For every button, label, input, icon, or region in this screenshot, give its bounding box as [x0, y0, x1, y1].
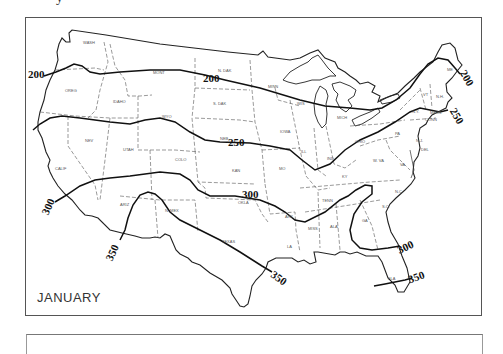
state-label: MICH	[337, 115, 347, 120]
label-200-west: 200	[28, 68, 45, 80]
map-month-caption: JANUARY	[37, 290, 101, 305]
label-200-east: 200	[458, 68, 477, 89]
state-label: GA	[362, 218, 368, 223]
state-label: LA	[287, 244, 292, 249]
label-250-east: 250	[448, 106, 467, 127]
state-label: MISS	[308, 226, 318, 231]
state-label: MO	[279, 166, 285, 171]
state-label: ARIZ	[120, 202, 130, 207]
label-300-west: 300	[39, 196, 57, 216]
state-label: OREG	[65, 88, 77, 93]
state-label: KY	[342, 174, 348, 179]
isoline-200	[44, 58, 460, 110]
state-label: N. MEX	[165, 208, 179, 213]
state-label: MONT	[153, 70, 165, 75]
state-label: VT	[423, 92, 429, 97]
state-label: N.C.	[395, 189, 403, 194]
state-label: OKLA	[238, 200, 249, 205]
state-label: WYO	[162, 114, 172, 119]
lake-erie	[352, 108, 380, 126]
isolines	[33, 58, 460, 286]
state-label: ARK	[285, 214, 294, 219]
label-300-central: 300	[242, 188, 259, 200]
state-label: PA	[395, 131, 400, 136]
state-label: MASS	[430, 110, 442, 115]
state-label: TEXAS	[222, 239, 235, 244]
us-outline	[38, 30, 462, 307]
state-label: MINN	[268, 84, 278, 89]
state-label: FLA	[388, 276, 396, 281]
state-label: ME	[447, 67, 453, 72]
state-label: VA	[400, 162, 405, 167]
state-label: TENN	[322, 198, 333, 203]
label-300-east: 300	[395, 238, 415, 256]
state-label: N.Y.	[412, 109, 419, 114]
state-label: NEB	[220, 136, 229, 141]
state-label: W. VA	[373, 158, 384, 163]
state-label: WIS	[297, 101, 305, 106]
label-350-florida: 350	[406, 268, 426, 285]
state-label: COLO	[175, 157, 186, 162]
label-350-gulf: 350	[269, 268, 290, 288]
state-label: S. DAK	[213, 101, 226, 106]
state-label: N. DAK	[218, 68, 232, 73]
state-label: CONN	[425, 117, 437, 122]
state-label: CALIF	[55, 166, 67, 171]
state-label: N.H.	[436, 94, 444, 99]
state-label: ALA	[330, 224, 338, 229]
state-label: UTAH	[123, 147, 134, 152]
state-label: NEV	[85, 138, 94, 143]
state-label: OHIO	[355, 139, 365, 144]
isoline-350	[120, 192, 272, 272]
state-label: IDAHO	[113, 99, 126, 104]
state-label: DEL	[421, 147, 430, 152]
lake-michigan	[314, 86, 328, 128]
state-label: KAN	[232, 168, 240, 173]
state-label: WASH	[83, 40, 95, 45]
label-250-central: 250	[228, 136, 245, 148]
state-label: N.J.	[416, 138, 423, 143]
label-350-west: 350	[103, 242, 121, 262]
state-label: S.C.	[382, 204, 390, 209]
state-label: IND	[327, 156, 334, 161]
state-label: IOWA	[280, 129, 291, 134]
state-label: ILL	[301, 149, 307, 154]
label-200-central: 200	[203, 72, 220, 84]
